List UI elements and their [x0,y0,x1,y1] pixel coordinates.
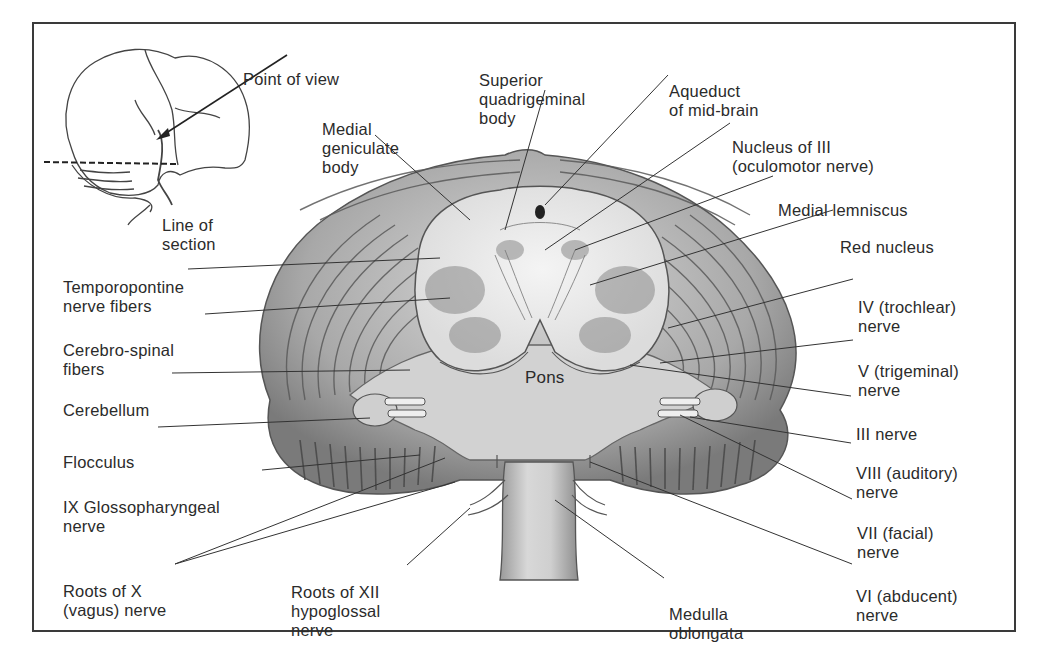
inset-brain-sketch [66,49,250,225]
label-medulla-oblongata: Medullaoblongata [669,567,743,655]
line-of-section [44,162,178,164]
aqueduct-drawing [535,205,545,219]
label-superior-quadrigeminal-body: Superiorquadrigeminalbody [479,33,585,147]
medulla-drawing [500,462,578,580]
label-pons: Pons [525,368,565,387]
label-medial-geniculate-body: Medialgeniculatebody [322,82,399,196]
label-vagus-roots: Roots of X(vagus) nerve [63,544,166,639]
label-glossopharyngeal: IX Glossopharyngealnerve [63,460,220,555]
label-abducent-nerve: VI (abducent)nerve [856,549,958,644]
label-hypoglossal-roots: Roots of XIIhypoglossalnerve [291,545,380,655]
